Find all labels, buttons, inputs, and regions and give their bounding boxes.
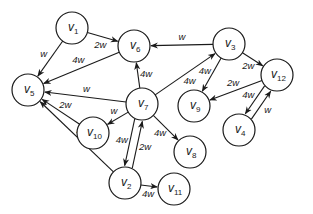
- node-v4: v4: [223, 114, 255, 146]
- node-v5: v5: [12, 74, 44, 106]
- edge-weight-v4-v12: w: [264, 104, 272, 115]
- edge-weight-v7-v2: 4w: [116, 134, 129, 145]
- edge-weight-v12-v9: 2w: [226, 77, 240, 88]
- edge-weight-v3-v9: 4w: [199, 65, 212, 76]
- edge-weight-v1-v5: w: [40, 48, 48, 59]
- node-v1: v1: [56, 12, 88, 44]
- node-v6: v6: [118, 30, 150, 62]
- edge-weight-v12-v4: 4w: [242, 89, 255, 100]
- edge-weight-v2-v7: 2w: [138, 141, 152, 152]
- node-v3: v3: [213, 28, 245, 60]
- edge-weight-v6-v5: 4w: [72, 54, 85, 65]
- node-v8: v8: [174, 136, 206, 168]
- node-v10: v10: [77, 117, 109, 149]
- clipped-caption: ..... . ... .... ....: [2, 208, 81, 214]
- edge-weight-v2-v11: 4w: [142, 188, 155, 199]
- graph-diagram: 2ww4ww2w4w2w4ww4w4www4w4w2w2w4w4w v1v6v3…: [0, 0, 313, 214]
- node-v9: v9: [178, 90, 210, 122]
- edge-weight-v7-v3: 4w: [184, 75, 197, 86]
- edge-weight-v7-v5: w: [83, 83, 91, 94]
- edge-weight-v7-v8: 4w: [154, 127, 167, 138]
- edge-weight-v1-v6: 2w: [93, 39, 107, 50]
- edge-weight-v7-v10: w: [110, 105, 118, 116]
- edge-v3-v6: [151, 44, 213, 45]
- node-v7: v7: [126, 88, 158, 120]
- edge-weight-v3-v6: w: [178, 31, 186, 42]
- edge-v2-v11: [141, 185, 157, 187]
- edge-weight-v10-v5: 2w: [58, 99, 72, 110]
- node-v12: v12: [261, 59, 293, 91]
- edge-weight-v7-v6: 4w: [140, 68, 153, 79]
- edge-weight-v3-v12: 2w: [241, 60, 255, 71]
- node-v2: v2: [109, 167, 141, 199]
- nodes-layer: v1v6v3v12v5v7v9v4v10v8v2v11: [12, 12, 293, 205]
- node-v11: v11: [158, 173, 190, 205]
